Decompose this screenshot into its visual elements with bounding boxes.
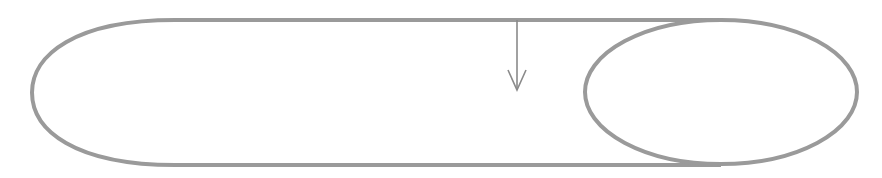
down-arrow-icon xyxy=(508,20,526,90)
cylinder-body-outline xyxy=(32,20,721,165)
cylinder-diagram xyxy=(0,0,882,178)
diagram-canvas xyxy=(0,0,882,178)
cylinder-end-ellipse xyxy=(585,20,857,164)
